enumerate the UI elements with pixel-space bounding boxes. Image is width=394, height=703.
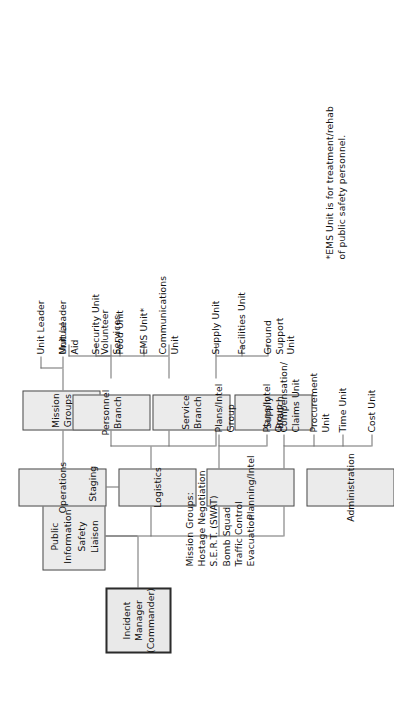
admin-c4 — [371, 434, 372, 446]
service-out — [168, 356, 169, 378]
to-service-branch — [168, 430, 169, 446]
box-public-information[interactable]: Public Information Safety Liaison — [42, 502, 105, 570]
admin-c1 — [283, 434, 284, 446]
admin-bus — [283, 445, 371, 446]
box-incident-manager[interactable]: Incident Manager (Commander) — [105, 587, 171, 653]
mission-out — [62, 368, 63, 390]
root-to-bus — [137, 536, 138, 588]
personnel-bus — [68, 355, 110, 356]
bus-to-logistics — [150, 506, 151, 536]
label-cost-unit: Cost Unit — [365, 360, 377, 432]
admin-c3 — [342, 434, 343, 446]
mission-child-1 — [62, 356, 63, 368]
label-compensation-claims-unit: Compensation/ Claims Unit — [277, 360, 300, 432]
admin-out — [283, 446, 284, 468]
label-procurement-unit: Procurement Unit — [307, 360, 330, 432]
label-plans-intel-group-1: Plans/Intel Group — [212, 372, 235, 432]
note-mission-groups: Mission Groups: Hostage Negotiation S.E.… — [183, 436, 256, 566]
bus-to-administration — [283, 506, 284, 536]
planning-c2 — [266, 434, 267, 446]
box-administration[interactable]: Administration — [306, 468, 394, 506]
label-mutual-aid: Mutual Aid — [56, 292, 79, 354]
label-security-unit: Security Unit — [89, 284, 101, 354]
note-ems-footnote: *EMS Unit is for treatment/rehab of publ… — [323, 59, 347, 259]
label-ground-support-unit: Ground Support Unit — [261, 282, 296, 354]
box-personnel-branch[interactable]: Personnel Branch — [72, 394, 150, 430]
mission-child-2 — [40, 356, 41, 368]
label-supply-unit: Supply Unit — [209, 284, 221, 354]
label-time-unit: Time Unit — [336, 360, 348, 432]
logistics-out — [150, 446, 151, 468]
personnel-out — [110, 356, 111, 378]
label-staging: Staging — [86, 441, 98, 501]
mission-child-bus — [40, 367, 62, 368]
label-food-unit: Food Unit — [113, 284, 125, 354]
label-communications-unit: Communications Unit — [156, 284, 179, 354]
label-facilities-unit: Facilities Unit — [235, 284, 247, 354]
label-ems-unit: EMS Unit* — [137, 284, 149, 354]
label-unit-leader-2: Unit Leader — [34, 294, 46, 354]
admin-c2 — [313, 434, 314, 446]
